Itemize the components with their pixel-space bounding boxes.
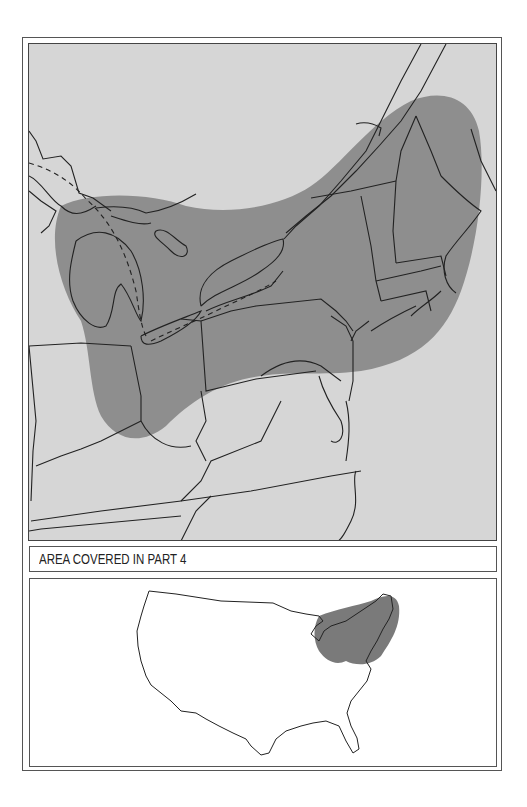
- caption-box: AREA COVERED IN PART 4: [29, 546, 497, 572]
- us-outline: [137, 591, 393, 755]
- caption-label: AREA COVERED IN PART 4: [39, 551, 186, 567]
- regional-map-svg: [29, 44, 497, 541]
- regional-map: [28, 43, 497, 541]
- us-inset-map: [29, 578, 497, 767]
- inset-coverage-area-shape: [315, 596, 400, 664]
- coverage-area-shape: [55, 96, 482, 439]
- us-inset-map-svg: [30, 579, 497, 767]
